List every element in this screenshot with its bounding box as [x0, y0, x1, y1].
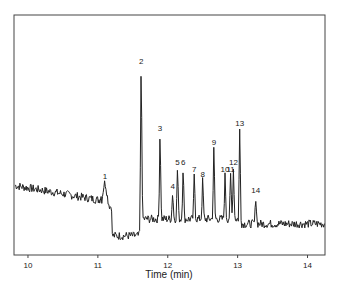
- peak-label: 14: [251, 186, 260, 195]
- peak-label: 13: [235, 119, 244, 128]
- peak-label: 4: [170, 182, 175, 191]
- peak-label: 3: [158, 124, 163, 133]
- peak-label: 1: [103, 172, 108, 181]
- chromatogram-chart: 1011121314 1234567891011121314: [0, 0, 338, 297]
- x-axis-label: Time (min): [0, 269, 338, 280]
- peak-label: 9: [212, 138, 217, 147]
- peak-labels: 1234567891011121314: [103, 57, 261, 196]
- peak-label: 7: [192, 165, 197, 174]
- chromatogram-trace: [15, 76, 324, 240]
- x-axis-ticks: 1011121314: [24, 255, 313, 270]
- peak-label: 12: [229, 158, 238, 167]
- peak-label: 6: [181, 158, 186, 167]
- peak-label: 8: [200, 170, 205, 179]
- peak-label: 2: [139, 57, 144, 66]
- peak-label: 5: [175, 158, 180, 167]
